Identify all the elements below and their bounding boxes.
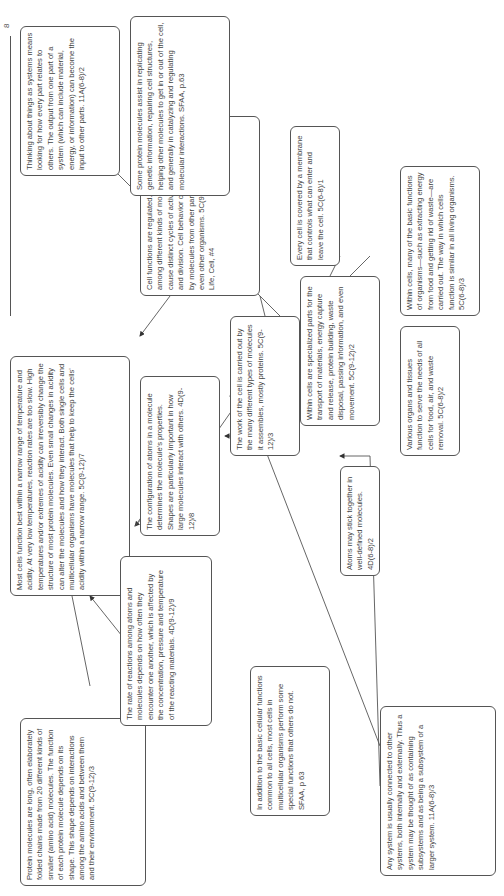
node-basic-functions: In addition to the basic cellular functi… (250, 666, 330, 816)
concept-map-canvas: 8 Protein molecules are l (0, 0, 504, 896)
node-atoms-stick: Atoms may stick together in well-defined… (340, 466, 380, 576)
node-any-system: Any system is usually connected to other… (380, 706, 496, 876)
node-protein-assist: Some protein molecules assist in replica… (130, 16, 230, 196)
node-rate-reactions: The rate of reactions among atoms and mo… (120, 556, 212, 726)
node-systems-thinking: Thinking about things as systems means l… (20, 26, 120, 176)
node-organs-tissues: Various organs and tissues function to s… (400, 326, 460, 456)
node-work-of-cell: The work of the cell is carried out by t… (230, 316, 300, 456)
node-narrow-range: Most cells function best within a narrow… (10, 356, 130, 596)
node-membrane: Every cell is covered by a membrane that… (290, 126, 340, 266)
node-protein-chains: Protein molecules are long, often elabor… (20, 718, 146, 886)
node-within-cells-basic: Within cells, many of the basic function… (400, 166, 480, 316)
node-specialized-parts: Within cells are specialized parts for t… (300, 276, 380, 426)
node-configuration: The configuration of atoms in a molecule… (140, 376, 220, 536)
